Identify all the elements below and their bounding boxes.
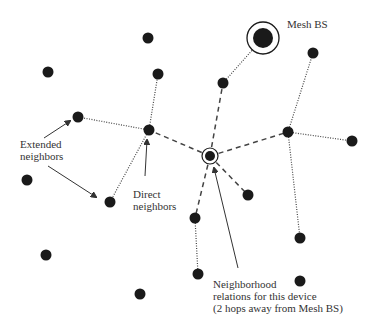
neighborhood-label-line2: relations for this device xyxy=(213,290,317,302)
nodes xyxy=(22,22,358,300)
mesh-bs-label: Mesh BS xyxy=(287,18,328,30)
edge-dashed xyxy=(195,156,210,218)
mesh-node xyxy=(143,33,154,44)
direct-neighbors-label-line2: neighbors xyxy=(133,200,176,212)
mesh-node xyxy=(218,78,229,89)
neighborhood-label-line1: Neighborhood xyxy=(213,278,277,290)
mesh-network-diagram xyxy=(0,0,371,328)
edge-dotted xyxy=(288,132,352,141)
edge-dashed xyxy=(210,132,288,156)
edge-dotted xyxy=(78,117,149,130)
mesh-node xyxy=(43,67,54,78)
edge-dashed xyxy=(149,130,210,156)
mesh-node xyxy=(135,289,146,300)
mesh-node xyxy=(243,190,254,201)
neighborhood-label-line3: (2 hops away from Mesh BS) xyxy=(213,302,343,314)
extended-arrow-up xyxy=(44,121,70,138)
mesh-node xyxy=(347,136,358,147)
edge-dotted xyxy=(195,218,198,274)
mesh-node xyxy=(153,69,164,80)
extended-neighbors-label-line2: neighbors xyxy=(20,150,63,162)
direct-arrow xyxy=(145,140,147,176)
mesh-node xyxy=(190,213,201,224)
mesh-node xyxy=(144,125,155,136)
mesh-node xyxy=(308,48,319,59)
extended-arrow-down xyxy=(48,166,96,197)
mesh-node xyxy=(105,197,116,208)
device-arrow xyxy=(214,168,238,268)
mesh-node xyxy=(22,175,33,186)
mesh-node xyxy=(295,276,306,287)
mesh-node xyxy=(41,250,52,261)
edge-dotted xyxy=(149,74,158,130)
extended-neighbors-label-line1: Extended xyxy=(20,138,62,150)
edge-dotted xyxy=(288,132,300,238)
mesh-node xyxy=(295,233,306,244)
mesh-node xyxy=(73,112,84,123)
edge-dotted xyxy=(288,53,313,132)
mesh-bs-node xyxy=(247,22,279,54)
mesh-node xyxy=(283,127,294,138)
this-device-node xyxy=(202,148,218,164)
edge-dashed xyxy=(210,83,223,156)
direct-neighbors-label-line1: Direct xyxy=(133,188,160,200)
mesh-node xyxy=(193,269,204,280)
